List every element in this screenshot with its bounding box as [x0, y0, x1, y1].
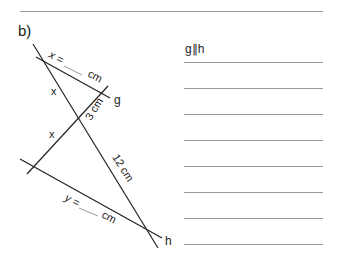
- label-3cm: 3 cm: [83, 95, 106, 122]
- answer-line-1[interactable]: [184, 62, 323, 63]
- label-g: g: [114, 93, 121, 107]
- label-x-top: x: [51, 85, 57, 97]
- answer-line-2[interactable]: [184, 88, 323, 89]
- label-y-equals: y =: [62, 191, 82, 209]
- answer-line-6[interactable]: [184, 192, 323, 193]
- answer-line-8[interactable]: [184, 244, 323, 245]
- label-x-bottom: x: [49, 128, 55, 140]
- label-h: h: [165, 234, 172, 248]
- label-x-equals: x =: [46, 48, 66, 66]
- answer-line-4[interactable]: [184, 140, 323, 141]
- label-12cm: 12 cm: [110, 152, 136, 184]
- label-y-unit: cm: [100, 208, 119, 225]
- label-x-unit: cm: [86, 67, 105, 84]
- line-h: [20, 159, 162, 238]
- geometry-figure: g h x x 3 cm 12 cm x = cm y = cm: [0, 0, 337, 266]
- answer-line-5[interactable]: [184, 166, 323, 167]
- answer-line-3[interactable]: [184, 114, 323, 115]
- answer-line-7[interactable]: [184, 218, 323, 219]
